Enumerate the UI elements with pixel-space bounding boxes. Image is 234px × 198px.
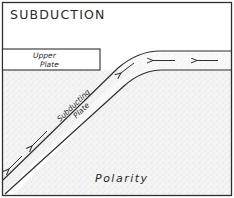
diagram-title: SUBDUCTION (10, 7, 106, 22)
subduction-diagram: SUBDUCTION Upper Plate Subducting Plate … (0, 0, 234, 198)
upper-plate-label: Plate (40, 60, 59, 69)
diagram-caption: Polarity (95, 172, 149, 185)
upper-plate-label: Upper (33, 51, 57, 60)
